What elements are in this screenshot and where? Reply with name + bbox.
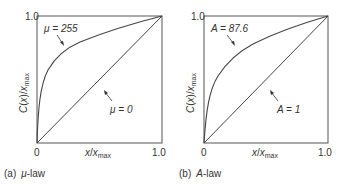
arrowhead-a876 xyxy=(231,41,235,46)
x-axis-label: x/xmax xyxy=(251,147,279,159)
companding-charts: 1.0 0 1.0 μ = 255 μ = 0 C(x)/xmax x/xmax… xyxy=(0,0,353,188)
y-tick-1: 1.0 xyxy=(25,11,39,22)
label-a1: A = 1 xyxy=(276,104,300,115)
x-tick-0: 0 xyxy=(34,147,40,158)
arrowhead-mu0 xyxy=(104,90,108,95)
arrowhead-mu255 xyxy=(60,41,64,46)
x-tick-0: 0 xyxy=(201,147,207,158)
x-tick-1: 1.0 xyxy=(318,147,332,158)
x-axis-label: x/xmax xyxy=(84,147,112,159)
y-axis-label: C(x)/xmax xyxy=(18,73,30,113)
chart-mu-law: 1.0 0 1.0 μ = 255 μ = 0 C(x)/xmax x/xmax… xyxy=(4,11,166,179)
caption-a: (a)μ-law xyxy=(4,168,46,179)
x-tick-1: 1.0 xyxy=(152,147,166,158)
y-tick-1: 1.0 xyxy=(191,11,205,22)
chart-a-law: 1.0 0 1.0 A = 87.6 A = 1 C(x)/xmax x/xma… xyxy=(179,11,332,179)
label-a876: A = 87.6 xyxy=(210,23,249,34)
y-axis-label: C(x)/xmax xyxy=(185,73,197,113)
caption-b: (b)A-law xyxy=(179,168,222,179)
label-mu0: μ = 0 xyxy=(109,104,133,115)
arrowhead-a1 xyxy=(270,90,274,95)
linear-line-a1 xyxy=(204,16,328,143)
label-mu255: μ = 255 xyxy=(43,23,78,34)
